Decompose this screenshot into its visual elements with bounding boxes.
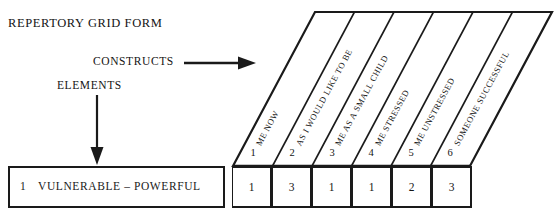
construct-index: 1: [20, 180, 26, 192]
repertory-grid-form-page: REPERTORY GRID FORM CONSTRUCTS ELEMENTS …: [0, 0, 556, 218]
column-number-2: 2: [281, 147, 303, 158]
rating-cell[interactable]: 2: [392, 166, 432, 208]
rating-cell[interactable]: 1: [232, 166, 272, 208]
column-number-3: 3: [321, 147, 343, 158]
rating-cell[interactable]: 3: [272, 166, 312, 208]
rating-cell[interactable]: 3: [432, 166, 472, 208]
column-number-5: 5: [400, 147, 422, 158]
construct-pole-text: VULNERABLE – POWERFUL: [38, 180, 201, 192]
rating-cell[interactable]: 1: [312, 166, 352, 208]
column-number-6: 6: [439, 147, 461, 158]
rating-cell[interactable]: 1: [352, 166, 392, 208]
column-number-4: 4: [360, 147, 382, 158]
construct-row-label-box: 1 VULNERABLE – POWERFUL: [8, 166, 225, 208]
column-number-1: 1: [242, 147, 264, 158]
